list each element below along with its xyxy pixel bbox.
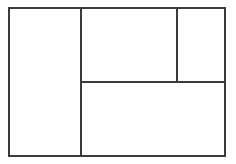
wireframe-canvas <box>0 0 236 164</box>
pane-bottom-right <box>82 83 224 155</box>
pane-top-right <box>178 9 224 81</box>
pane-left-column <box>10 9 80 155</box>
pane-top-middle <box>82 9 176 81</box>
